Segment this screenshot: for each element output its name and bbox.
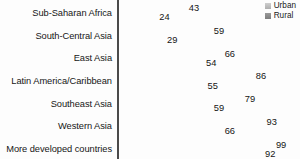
bar-value-label: 24 <box>159 12 169 22</box>
category-label: Western Asia <box>58 121 112 131</box>
bar-chart: Sub-Saharan AfricaSouth-Central AsiaEast… <box>0 0 300 159</box>
chart-legend: UrbanRural <box>265 2 296 20</box>
bar-value-label: 93 <box>267 117 277 127</box>
category-label: Southeast Asia <box>51 99 112 109</box>
bar-value-label: 92 <box>265 149 275 159</box>
bar-value-label: 66 <box>225 126 235 136</box>
category-label: More developed countries <box>6 144 112 154</box>
legend-label: Rural <box>274 12 294 20</box>
bar-rural: 59 <box>119 104 211 112</box>
category-axis-labels: Sub-Saharan AfricaSouth-Central AsiaEast… <box>0 0 116 159</box>
bar-value-label: 54 <box>206 58 216 68</box>
bar-rural: 92 <box>119 150 262 158</box>
bar-value-label: 86 <box>256 71 266 81</box>
legend-swatch-icon <box>265 3 271 9</box>
bar-urban: 99 <box>119 141 273 149</box>
category-label: East Asia <box>74 53 112 63</box>
bar-rural: 55 <box>119 82 205 90</box>
bar-value-label: 43 <box>189 3 199 13</box>
bar-value-label: 59 <box>214 26 224 36</box>
legend-item-urban[interactable]: Urban <box>265 2 296 10</box>
bar-value-label: 99 <box>276 140 286 150</box>
bar-value-label: 59 <box>214 103 224 113</box>
bar-urban: 59 <box>119 27 211 35</box>
bar-rural: 29 <box>119 36 164 44</box>
bar-urban: 79 <box>119 95 242 103</box>
bar-value-label: 55 <box>208 81 218 91</box>
category-label: Latin America/Caribbean <box>11 76 112 86</box>
bar-value-label: 29 <box>167 35 177 45</box>
bar-rural: 24 <box>119 13 156 21</box>
bar-value-label: 79 <box>245 94 255 104</box>
bar-urban: 66 <box>119 50 222 58</box>
plot-area: 4324592966548655795993669992 <box>119 0 300 159</box>
legend-item-rural[interactable]: Rural <box>265 12 296 20</box>
bar-value-label: 66 <box>225 49 235 59</box>
bar-rural: 54 <box>119 59 203 67</box>
bar-urban: 93 <box>119 118 264 126</box>
category-label: South-Central Asia <box>35 31 112 41</box>
legend-swatch-icon <box>265 13 271 19</box>
category-label: Sub-Saharan Africa <box>32 8 112 18</box>
bar-urban: 43 <box>119 4 186 12</box>
legend-label: Urban <box>274 2 296 10</box>
bar-rural: 66 <box>119 127 222 135</box>
bar-urban: 86 <box>119 72 253 80</box>
